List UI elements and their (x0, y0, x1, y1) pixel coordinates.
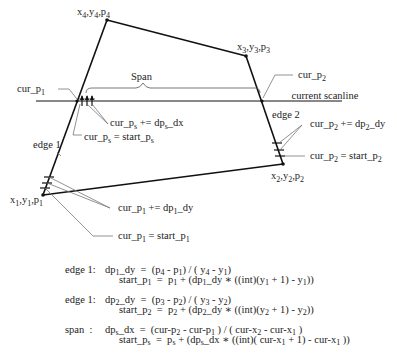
cur-p2-start-label: cur_p2 = start_p2 (310, 150, 382, 164)
cur-ps-start-label: cur_ps = start_ps (84, 131, 154, 145)
vertex-label-p2: x2,y2,p2 (271, 170, 304, 184)
vertex-p2 (281, 162, 285, 166)
equation-edge2-line2: start_p2 = p2 + (dp2_dy ∗ ((int)(y2 + 1)… (119, 304, 314, 316)
edge2-label: edge 2 (272, 109, 300, 120)
vertex-label-p1: x1,y1,p1 (10, 194, 43, 208)
edge2-ticks (272, 143, 285, 156)
cur-p2-label: cur_p2 (298, 69, 326, 83)
span-tick-arrowheads (80, 95, 94, 100)
cur-p1-start-label: cur_p1 = start_p1 (118, 230, 190, 244)
edge-p2-p1 (43, 164, 283, 195)
cur-p1-label: cur_p1 (17, 83, 45, 97)
equation-span-name: span : (65, 324, 92, 336)
vertex-label-p3: x3,y3,p3 (237, 41, 270, 55)
vertex-label-p4: x4,y4,p4 (77, 6, 110, 20)
span-brace (86, 83, 260, 93)
cur-ps-increment-label: cur_ps += dps_dx (110, 117, 184, 131)
equation-span-line2: start_ps = ps + (dps_dx ∗ ((int)( cur-x1… (119, 334, 350, 346)
span-label: Span (131, 71, 153, 82)
equation-edge2-name: edge 1: (65, 294, 96, 306)
cur-p1-increment-label: cur_p1 += dp1_dy (118, 202, 194, 216)
scanline-right-intersection (260, 99, 263, 102)
edge-p1-p4 (43, 20, 107, 195)
cur-p2-increment-label: cur_p2 += dp2_dy (310, 118, 386, 132)
vertex-p1 (41, 193, 45, 197)
equation-edge1-line2: start_p1 = p1 + (dp1_dy ∗ ((int)(y1 + 1)… (119, 274, 314, 286)
edge1-label: edge 1 (33, 139, 61, 150)
scanline-left-intersection (75, 99, 78, 102)
equation-edge1-name: edge 1: (65, 264, 96, 276)
current-scanline-label: current scanline (292, 90, 359, 101)
edge-p4-p3 (107, 20, 246, 56)
